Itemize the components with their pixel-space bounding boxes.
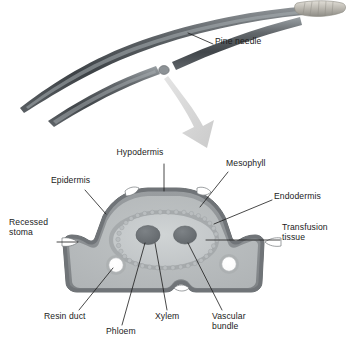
stoma-right [265, 238, 281, 247]
label-vascular-bundle: Vascular bundle [212, 311, 246, 331]
stoma-bottom [174, 285, 189, 291]
pine-needle-figure: Pine needle Hypodermis Mesophyll Epiderm… [0, 0, 353, 358]
pine-needle-upper-highlight [26, 11, 299, 109]
needle-cut-end [159, 66, 169, 75]
resin-duct-right [219, 254, 239, 274]
stoma-top-right [197, 187, 211, 195]
label-xylem: Xylem [155, 311, 179, 321]
resin-duct-left [106, 255, 126, 275]
zoom-arrow [164, 76, 214, 148]
label-transfusion-tissue: Transfusion tissue [282, 222, 328, 242]
leader-epidermis [85, 190, 106, 214]
label-recessed-stoma: Recessed stoma [9, 217, 48, 237]
pine-needle-upper [20, 7, 303, 113]
vascular-bundle-left [136, 226, 160, 245]
label-mesophyll: Mesophyll [226, 158, 266, 168]
label-pine-needle: Pine needle [215, 36, 262, 46]
label-endodermis: Endodermis [274, 191, 321, 201]
label-hypodermis: Hypodermis [104, 147, 176, 157]
leader-pine-needle [188, 33, 213, 44]
label-resin-duct: Resin duct [44, 311, 86, 321]
pine-needle-illustration [20, 1, 346, 127]
vascular-bundle-right [174, 226, 197, 244]
label-phloem: Phloem [106, 326, 136, 336]
label-epidermis: Epidermis [51, 175, 90, 185]
cross-section-drawing [62, 187, 281, 292]
fascicle-sheath [295, 1, 346, 17]
